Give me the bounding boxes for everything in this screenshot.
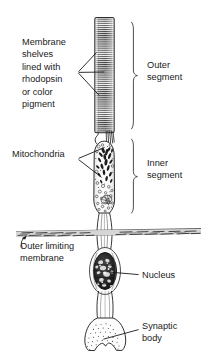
axon-stalk — [97, 291, 113, 318]
membrane-shelves-line-6: pigment — [22, 99, 55, 109]
outer-segment-cylinder — [95, 17, 114, 132]
mitochondria-label: Mitochondria — [12, 149, 65, 159]
nucleus-label: Nucleus — [142, 270, 176, 280]
membrane-shelves-line-4: rhodopsin — [22, 74, 62, 84]
membrane-shelves-line-5: or color — [22, 87, 53, 97]
membrane-shelves-line-3: lined with — [22, 62, 60, 72]
inner-segment-line-1: Inner — [147, 158, 168, 168]
membrane-shelves-label: Membrane shelves lined with rhodopsin or… — [22, 37, 66, 109]
membrane-shelves-line-1: Membrane — [22, 37, 66, 47]
outer-segment-line-2: segment — [147, 72, 183, 82]
outer-segment-brace — [132, 22, 138, 129]
synaptic-body-label: Synaptic body — [142, 321, 178, 343]
outer-limiting-membrane-band — [16, 228, 201, 237]
inner-segment-brace — [132, 139, 138, 213]
outer-segment-label: Outer segment — [147, 60, 183, 82]
synaptic-body-shape — [85, 318, 126, 351]
outer-limiting-membrane-line-2: membrane — [20, 253, 64, 263]
mitochondria-line-1: Mitochondria — [12, 149, 65, 159]
inner-segment-line-2: segment — [147, 170, 183, 180]
synaptic-body-line-2: body — [142, 333, 162, 343]
nucleus-oval — [90, 248, 121, 295]
outer-segment-line-1: Outer — [147, 60, 170, 70]
inner-segment-label: Inner segment — [147, 158, 183, 180]
outer-limiting-membrane-label: Outer limiting membrane — [20, 241, 74, 263]
figure-canvas: Membrane shelves lined with rhodopsin or… — [0, 0, 202, 357]
nucleus-line-1: Nucleus — [142, 270, 176, 280]
inner-segment-body — [94, 141, 115, 213]
membrane-shelves-line-2: shelves — [22, 49, 54, 59]
outer-limiting-membrane-line-1: Outer limiting — [20, 241, 74, 251]
synaptic-body-line-1: Synaptic — [142, 321, 178, 331]
